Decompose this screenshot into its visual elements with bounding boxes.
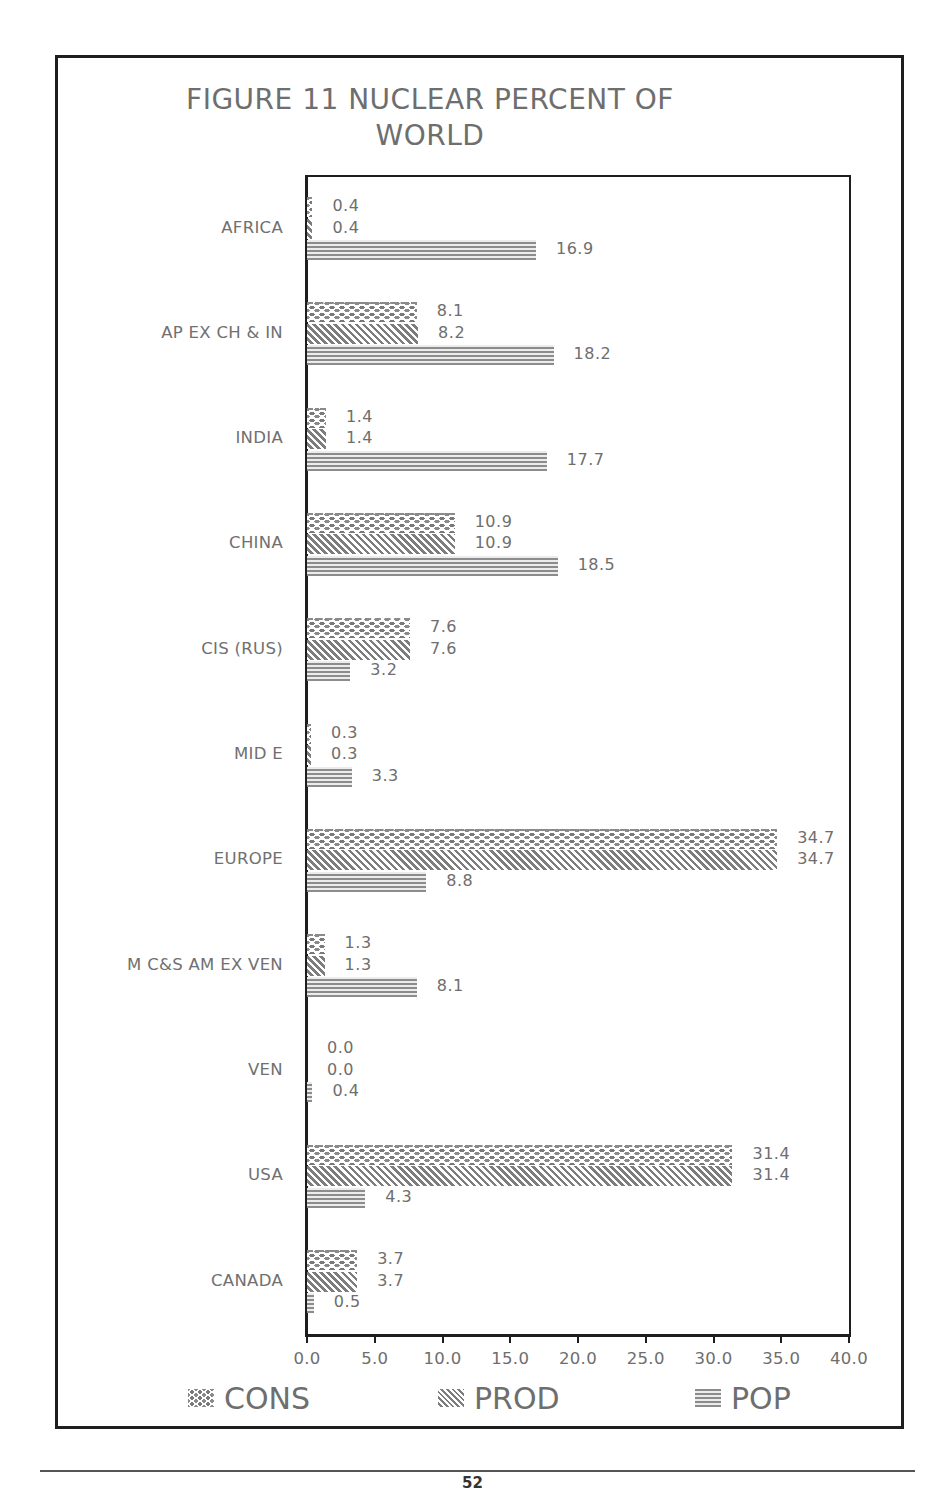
x-tick-label: 10.0 [413,1349,473,1368]
x-tick-label: 0.0 [277,1349,337,1368]
value-label-pop: 3.3 [372,766,399,785]
category-label: USA [248,1165,283,1184]
value-label-prod: 10.9 [475,533,513,552]
bar-pop [307,767,352,787]
bar-prod [307,219,312,239]
value-label-pop: 18.2 [574,344,612,363]
x-tick-label: 20.0 [548,1349,608,1368]
bar-pop [307,240,536,260]
x-tick-label: 35.0 [751,1349,811,1368]
legend-label: CONS [224,1381,310,1416]
x-tick-label: 5.0 [345,1349,405,1368]
category-label: AFRICA [221,218,283,237]
value-label-cons: 1.4 [346,407,373,426]
bar-prod [307,745,311,765]
category-label: VEN [248,1060,283,1079]
bar-prod [307,429,326,449]
bar-pop [307,556,558,576]
chart-title-line-2: WORLD [100,118,760,154]
chart-title: FIGURE 11 NUCLEAR PERCENT OF WORLD [100,82,760,154]
x-tick-label: 40.0 [819,1349,879,1368]
value-label-prod: 0.3 [331,744,358,763]
value-label-prod: 31.4 [752,1165,790,1184]
bar-pop [307,451,547,471]
value-label-pop: 8.1 [437,976,464,995]
value-label-cons: 0.0 [327,1038,354,1057]
value-label-cons: 10.9 [475,512,513,531]
value-label-prod: 8.2 [438,323,465,342]
page-divider [40,1470,915,1472]
category-label: AP EX CH & IN [161,323,283,342]
x-tick-label: 25.0 [616,1349,676,1368]
x-tick-mark [577,1335,579,1343]
bar-cons [307,1250,357,1270]
value-label-cons: 7.6 [430,617,457,636]
category-label: M C&S AM EX VEN [127,955,283,974]
dots-pattern-icon [188,1389,214,1407]
x-tick-mark [306,1335,308,1343]
bar-cons [307,1145,732,1165]
x-tick-label: 15.0 [480,1349,540,1368]
value-label-cons: 31.4 [752,1144,790,1163]
x-tick-mark [645,1335,647,1343]
category-label: CANADA [211,1271,283,1290]
bar-pop [307,345,554,365]
legend-label: PROD [474,1381,560,1416]
value-label-prod: 0.0 [327,1060,354,1079]
value-label-pop: 4.3 [385,1187,412,1206]
horizontal-lines-pattern-icon [695,1389,721,1407]
value-label-pop: 0.4 [332,1081,359,1100]
value-label-prod: 7.6 [430,639,457,658]
value-label-prod: 1.4 [346,428,373,447]
value-label-prod: 3.7 [377,1271,404,1290]
category-label: EUROPE [214,849,283,868]
x-tick-mark [374,1335,376,1343]
legend-label: POP [731,1381,791,1416]
value-label-pop: 18.5 [578,555,616,574]
x-tick-mark [713,1335,715,1343]
value-label-cons: 0.4 [332,196,359,215]
value-label-pop: 16.9 [556,239,594,258]
chart-title-line-1: FIGURE 11 NUCLEAR PERCENT OF [100,82,760,118]
bar-cons [307,618,410,638]
bar-cons [307,513,455,533]
bar-cons [307,302,417,322]
category-label: INDIA [235,428,283,447]
legend-item-cons: CONS [188,1378,310,1418]
bar-pop [307,1188,365,1208]
bar-prod [307,534,455,554]
bar-pop [307,1293,314,1313]
bar-pop [307,661,350,681]
value-label-cons: 8.1 [437,301,464,320]
bar-prod [307,1272,357,1292]
value-label-pop: 17.7 [567,450,605,469]
bar-prod [307,1166,732,1186]
bar-cons [307,934,325,954]
x-tick-mark [780,1335,782,1343]
bar-cons [307,408,326,428]
value-label-cons: 1.3 [345,933,372,952]
value-label-prod: 1.3 [345,955,372,974]
bar-pop [307,872,426,892]
diagonal-pattern-icon [438,1389,464,1407]
bar-cons [307,197,312,217]
legend-item-prod: PROD [438,1378,560,1418]
bar-prod [307,640,410,660]
bar-prod [307,324,418,344]
value-label-prod: 0.4 [332,218,359,237]
x-tick-label: 30.0 [684,1349,744,1368]
value-label-prod: 34.7 [797,849,835,868]
x-tick-mark [848,1335,850,1343]
bar-cons [307,829,777,849]
category-label: CIS (RUS) [201,639,283,658]
bar-prod [307,850,777,870]
value-label-pop: 8.8 [446,871,473,890]
category-label: MID E [234,744,283,763]
x-tick-mark [509,1335,511,1343]
value-label-cons: 0.3 [331,723,358,742]
bar-prod [307,956,325,976]
bar-pop [307,1082,312,1102]
bar-pop [307,977,417,997]
category-label: CHINA [229,533,283,552]
value-label-cons: 34.7 [797,828,835,847]
